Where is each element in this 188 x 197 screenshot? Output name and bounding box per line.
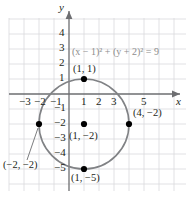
point-label-center: (1, −2) [69, 131, 98, 142]
y-tick-minus3: −3 [54, 132, 66, 143]
x-tick-3: 3 [111, 96, 117, 107]
y-tick-minus1: −1 [54, 102, 66, 113]
y-tick-minus2: −2 [54, 117, 66, 128]
y-tick-4: 4 [59, 27, 65, 38]
point-label-top: (1, 1) [73, 64, 96, 75]
x-tick-1: 1 [81, 96, 87, 107]
y-axis-label: y [59, 2, 64, 13]
circle-equation-label: (x − 1)² + (y + 2)² = 9 [72, 47, 159, 57]
x-tick-2: 2 [96, 96, 102, 107]
point-top [81, 76, 87, 82]
point-left [36, 121, 42, 127]
point-label-left: (−2, −2) [3, 160, 38, 171]
point-label-bottom: (1, −5) [71, 173, 100, 184]
leader-line-left-point [27, 128, 38, 160]
y-tick-2: 2 [59, 57, 65, 68]
x-tick-5: 5 [141, 96, 147, 107]
y-tick-minus4: −4 [54, 147, 66, 158]
x-tick-minus3: −3 [19, 96, 31, 107]
x-axis-label: x [176, 96, 181, 107]
y-tick-1: 1 [59, 72, 65, 83]
point-right [126, 121, 132, 127]
y-tick-3: 3 [59, 42, 65, 53]
point-center [81, 121, 87, 127]
point-label-right: (4, −2) [133, 108, 162, 119]
circle-graph-figure: (x − 1)² + (y + 2)² = 9 (1, 1) (4, −2) (… [0, 0, 188, 197]
y-axis-arrow [66, 11, 73, 19]
x-tick-minus2: −2 [34, 96, 46, 107]
y-tick-minus5: −5 [54, 162, 66, 173]
